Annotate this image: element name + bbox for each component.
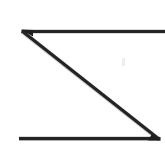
scan-speck-artifact bbox=[122, 58, 125, 66]
letter-z-figure bbox=[0, 0, 165, 150]
image-canvas: A large hand-drawn capital letter Z form… bbox=[0, 0, 165, 150]
